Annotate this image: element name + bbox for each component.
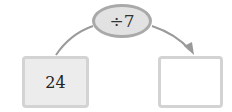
- incoming-arc: [56, 26, 93, 55]
- input-box: 24: [22, 56, 89, 108]
- input-value: 24: [45, 73, 65, 92]
- outgoing-arc: [152, 26, 190, 50]
- operation-ellipse: ÷7: [92, 4, 152, 38]
- operation-label: ÷7: [109, 11, 134, 31]
- output-box[interactable]: [158, 56, 223, 108]
